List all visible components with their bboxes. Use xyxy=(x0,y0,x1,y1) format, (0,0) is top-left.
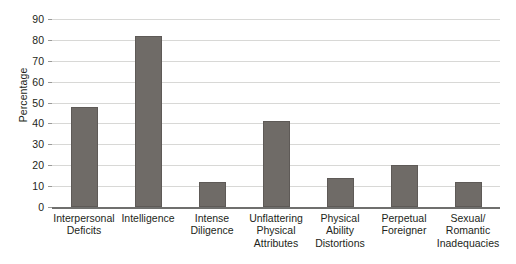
y-axis-tick-labels: 0102030405060708090 xyxy=(0,0,52,264)
bar xyxy=(71,107,98,207)
bar xyxy=(327,178,354,207)
x-tick-label-line: Romantic xyxy=(436,224,500,236)
x-tick-label: PerpetualForeigner xyxy=(372,212,436,237)
y-tick-label: 30 xyxy=(4,139,44,149)
x-axis-category-labels: InterpersonalDeficitsIntelligenceIntense… xyxy=(52,212,500,262)
x-axis-line xyxy=(52,207,500,209)
bar-series xyxy=(52,19,500,207)
bar-chart: Percentage 0102030405060708090 Interpers… xyxy=(0,0,516,264)
y-tick-label: 50 xyxy=(4,98,44,108)
bar xyxy=(455,182,482,207)
bar xyxy=(391,165,418,207)
bar xyxy=(199,182,226,207)
x-tick-label-line: Diligence xyxy=(180,224,244,236)
y-tick-label: 10 xyxy=(4,181,44,191)
y-tick-label: 60 xyxy=(4,77,44,87)
x-tick-label-line: Ability xyxy=(308,224,372,236)
x-tick-label-line: Physical xyxy=(308,212,372,224)
x-tick-label-line: Unflattering xyxy=(244,212,308,224)
x-tick-label: PhysicalAbilityDistortions xyxy=(308,212,372,249)
y-tick-label: 70 xyxy=(4,56,44,66)
plot-area xyxy=(52,19,500,207)
x-tick-label-line: Physical xyxy=(244,224,308,236)
y-tick-label: 90 xyxy=(4,14,44,24)
y-tick-label: 0 xyxy=(4,202,44,212)
bar xyxy=(263,121,290,207)
x-tick-label-line: Intelligence xyxy=(116,212,180,224)
x-tick-label-line: Intense xyxy=(180,212,244,224)
y-tick-label: 20 xyxy=(4,160,44,170)
y-tick-label: 80 xyxy=(4,35,44,45)
x-tick-label-line: Deficits xyxy=(52,224,116,236)
x-tick-label: UnflatteringPhysicalAttributes xyxy=(244,212,308,249)
bar xyxy=(135,36,162,207)
x-tick-label: Intelligence xyxy=(116,212,180,224)
x-tick-label-line: Sexual/ xyxy=(436,212,500,224)
x-tick-label-line: Perpetual xyxy=(372,212,436,224)
x-tick-label-line: Foreigner xyxy=(372,224,436,236)
x-tick-label-line: Interpersonal xyxy=(52,212,116,224)
x-tick-label: IntenseDiligence xyxy=(180,212,244,237)
y-tick-label: 40 xyxy=(4,118,44,128)
x-tick-label-line: Attributes xyxy=(244,237,308,249)
x-tick-label: InterpersonalDeficits xyxy=(52,212,116,237)
x-tick-label-line: Distortions xyxy=(308,237,372,249)
x-tick-label-line: Inadequacies xyxy=(436,237,500,249)
x-tick-label: Sexual/RomanticInadequacies xyxy=(436,212,500,249)
